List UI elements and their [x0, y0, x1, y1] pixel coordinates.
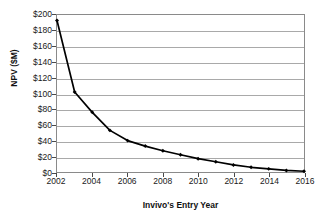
data-point-marker: [249, 165, 253, 169]
y-axis-tick-label: $0: [0, 169, 52, 178]
series-npv: [57, 15, 304, 172]
y-axis-tick-label: $60: [0, 121, 52, 130]
x-axis-tick-label: 2006: [118, 176, 137, 186]
x-axis-tick-label: 2014: [260, 176, 279, 186]
y-axis-tick-label: $20: [0, 153, 52, 162]
y-axis-tick-label: $40: [0, 137, 52, 146]
npv-line-chart: NPV ($M) $0$20$40$60$80$100$120$140$160$…: [0, 0, 328, 223]
x-axis-tick-label: 2002: [47, 176, 66, 186]
data-point-marker: [214, 160, 218, 164]
y-axis-tick-label: $140: [0, 57, 52, 66]
data-point-marker: [161, 149, 165, 153]
x-axis-tick-label: 2012: [224, 176, 243, 186]
data-point-marker: [143, 144, 147, 148]
x-axis-tick-label: 2004: [82, 176, 101, 186]
x-axis-tick-label: 2008: [153, 176, 172, 186]
y-axis-tick-label: $80: [0, 105, 52, 114]
y-axis-tick-label: $120: [0, 73, 52, 82]
x-axis-tick-labels: 20022004200620082010201220142016: [56, 176, 305, 188]
series-markers: [55, 19, 306, 174]
y-axis-tick-label: $100: [0, 89, 52, 98]
x-axis-tick-label: 2010: [189, 176, 208, 186]
data-point-marker: [284, 168, 288, 172]
x-axis-tick-label: 2016: [296, 176, 315, 186]
y-axis-tick-labels: $0$20$40$60$80$100$120$140$160$180$200: [0, 14, 52, 173]
y-axis-tick-label: $180: [0, 25, 52, 34]
x-axis-title: Invivo's Entry Year: [56, 200, 305, 210]
data-point-marker: [196, 157, 200, 161]
plot-area: [56, 14, 305, 173]
data-point-marker: [179, 153, 183, 157]
y-axis-tick-label: $160: [0, 41, 52, 50]
data-point-marker: [231, 163, 235, 167]
data-point-marker: [55, 19, 59, 23]
series-line: [57, 20, 304, 171]
y-axis-tick-label: $200: [0, 10, 52, 19]
data-point-marker: [267, 167, 271, 171]
